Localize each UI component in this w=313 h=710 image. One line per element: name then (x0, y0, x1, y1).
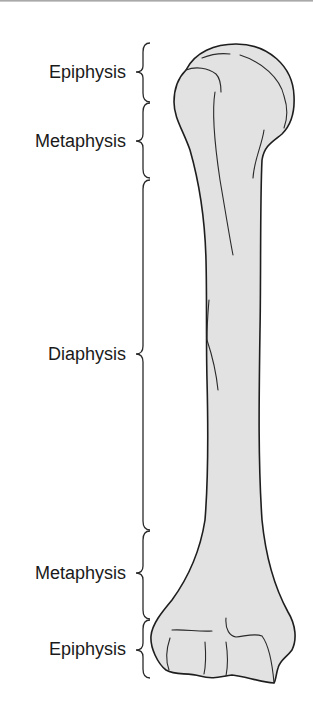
bone-diagram (0, 0, 313, 710)
brace-proximal-epiphysis (136, 43, 150, 102)
brace-proximal-metaphysis (136, 103, 150, 178)
brace-distal-metaphysis (136, 531, 150, 619)
region-braces (136, 43, 150, 678)
brace-distal-epiphysis (136, 620, 150, 678)
brace-diaphysis (136, 180, 150, 530)
humerus-outline (151, 44, 295, 683)
